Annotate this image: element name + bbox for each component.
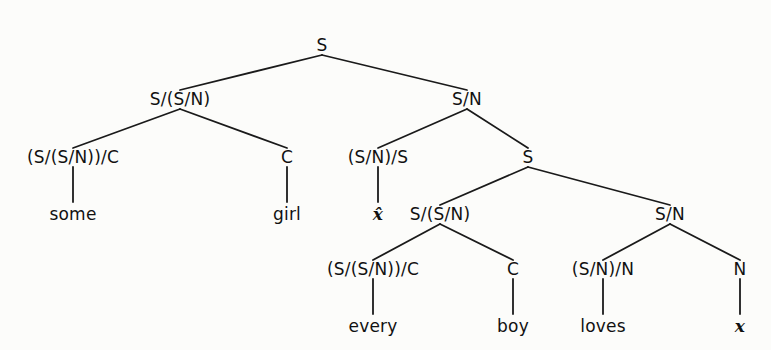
- tree-edge: [378, 109, 467, 148]
- leaf-x-hat: x̂: [373, 206, 383, 223]
- leaf-x: x: [735, 318, 745, 335]
- tree-edge: [603, 224, 670, 260]
- node-s-2: S: [523, 149, 534, 166]
- leaf-girl: girl: [273, 206, 301, 223]
- tree-edge: [180, 55, 322, 90]
- node-abstractor: (S/N)/S: [348, 149, 408, 166]
- tree-edge: [322, 55, 467, 90]
- tree-edges: [0, 0, 771, 350]
- tree-edge: [670, 224, 740, 260]
- node-s-over-s-over-n-2: S/(S/N): [410, 206, 470, 223]
- node-quantifier-det-1: (S/(S/N))/C: [27, 149, 119, 166]
- node-c-2: C: [507, 261, 519, 278]
- tree-edge: [467, 109, 528, 148]
- node-c-1: C: [281, 149, 293, 166]
- tree-edge: [440, 224, 513, 260]
- node-s-over-n-2: S/N: [655, 206, 685, 223]
- tree-edge: [73, 109, 180, 148]
- tree-edge: [440, 167, 528, 205]
- tree-edge: [373, 224, 440, 260]
- tree-edge: [180, 109, 287, 148]
- node-s-over-s-over-n-1: S/(S/N): [150, 91, 210, 108]
- leaf-loves: loves: [580, 318, 626, 335]
- node-n: N: [734, 261, 747, 278]
- leaf-boy: boy: [497, 318, 529, 335]
- node-root-s: S: [317, 37, 328, 54]
- leaf-every: every: [348, 318, 397, 335]
- tree-edge: [528, 167, 670, 205]
- leaf-some: some: [49, 206, 96, 223]
- node-s-over-n-1: S/N: [452, 91, 482, 108]
- node-quantifier-det-2: (S/(S/N))/C: [327, 261, 419, 278]
- node-transitive-verb: (S/N)/N: [572, 261, 634, 278]
